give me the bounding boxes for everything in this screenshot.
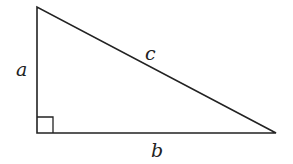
triangle-svg: a c b	[0, 0, 293, 164]
hypotenuse-c-label: c	[145, 42, 156, 64]
side-a-label: a	[16, 58, 27, 80]
right-angle-marker	[37, 117, 53, 133]
right-triangle-diagram: a c b	[0, 0, 293, 164]
side-b-label: b	[151, 139, 163, 161]
triangle-outline	[37, 7, 276, 133]
